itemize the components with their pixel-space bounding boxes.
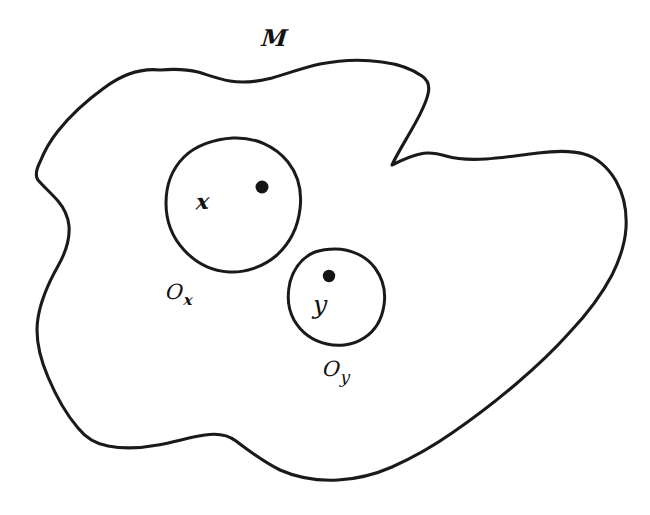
label-open-set-oy: Oy: [322, 359, 351, 380]
label-space-M: M: [261, 26, 289, 49]
label-open-set-oy-subscript: y: [340, 367, 351, 387]
label-point-x: x: [195, 190, 210, 213]
label-open-set-oy-base: O: [322, 357, 341, 381]
point-x-dot: [256, 181, 269, 194]
figure-canvas: M x y Ox Oy: [0, 0, 650, 515]
label-open-set-ox: Ox: [165, 282, 193, 303]
topology-diagram-svg: [0, 0, 650, 515]
label-open-set-ox-subscript: x: [183, 291, 194, 309]
point-y-dot: [323, 270, 335, 282]
label-point-y: y: [313, 292, 328, 317]
label-open-set-ox-base: O: [165, 280, 184, 304]
